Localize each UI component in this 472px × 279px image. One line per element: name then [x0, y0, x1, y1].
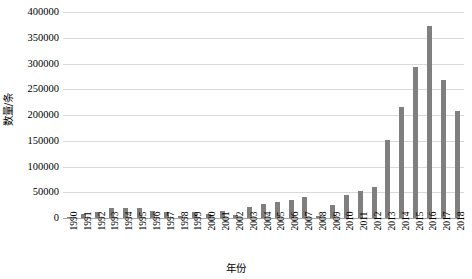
x-axis-tick-label: 2009 [333, 212, 343, 231]
x-axis-tick-label: 2002 [236, 212, 246, 231]
x-axis-tick-label: 2006 [291, 212, 301, 231]
bar [413, 67, 418, 218]
x-axis-tick-label: 2018 [457, 212, 467, 231]
x-axis-tick-label: 2003 [250, 212, 260, 231]
x-axis-tick-label: 2011 [360, 212, 370, 231]
bar-chart: 数量/条 40000035000030000025000020000015000… [0, 0, 472, 279]
y-axis-tick-label: 300000 [28, 58, 60, 69]
x-axis-tick-label: 2015 [416, 212, 426, 231]
y-axis-tick-label: 0 [54, 213, 59, 224]
x-axis-tick-label: 1999 [194, 212, 204, 231]
x-axis-tick-label: 2012 [374, 212, 384, 231]
x-axis-tick-label: 2001 [222, 212, 232, 231]
plot-area [63, 12, 464, 218]
x-axis-tick-label: 1990 [70, 212, 80, 231]
x-axis-tick-labels: 1990199119921993199419951996199719981999… [63, 219, 464, 259]
bars-layer [63, 12, 464, 218]
x-axis-tick-label: 1991 [84, 212, 94, 231]
x-axis-tick-label: 2000 [208, 212, 218, 231]
bar [399, 107, 404, 218]
y-axis-tick-label: 200000 [28, 110, 60, 121]
x-axis-tick-label: 1992 [98, 212, 108, 231]
x-axis-tick-label: 1993 [111, 212, 121, 231]
x-axis-tick-label: 2008 [319, 212, 329, 231]
x-axis-tick-label: 2004 [264, 212, 274, 231]
x-axis-tick-label: 2010 [346, 212, 356, 231]
bar [441, 80, 446, 218]
x-axis-tick-label: 1998 [181, 212, 191, 231]
x-axis-tick-label: 2005 [277, 212, 287, 231]
y-axis-tick-labels: 4000003500003000002500002000001500001000… [14, 0, 62, 224]
x-axis-tick-label: 1994 [125, 212, 135, 231]
y-axis-tick-label: 250000 [28, 84, 60, 95]
x-axis-tick-label: 1997 [167, 212, 177, 231]
x-axis-title-label: 年份 [226, 262, 246, 274]
x-axis-title: 年份 [0, 260, 472, 275]
x-axis-tick-label: 2007 [305, 212, 315, 231]
x-axis-tick-label: 2017 [443, 212, 453, 231]
x-axis-tick-label: 1995 [139, 212, 149, 231]
x-axis-tick-label: 2013 [388, 212, 398, 231]
x-axis-tick-label: 2016 [429, 212, 439, 231]
y-axis-tick-label: 150000 [28, 136, 60, 147]
x-axis-tick-label: 2014 [402, 212, 412, 231]
y-axis-tick-label: 50000 [33, 187, 59, 198]
y-axis-tick-label: 350000 [28, 33, 60, 44]
bar [385, 140, 390, 218]
y-axis-tick-label: 100000 [28, 161, 60, 172]
bar [427, 26, 432, 218]
bar [455, 111, 460, 218]
x-axis-tick-label: 1996 [153, 212, 163, 231]
y-axis-tick-label: 400000 [28, 7, 60, 18]
